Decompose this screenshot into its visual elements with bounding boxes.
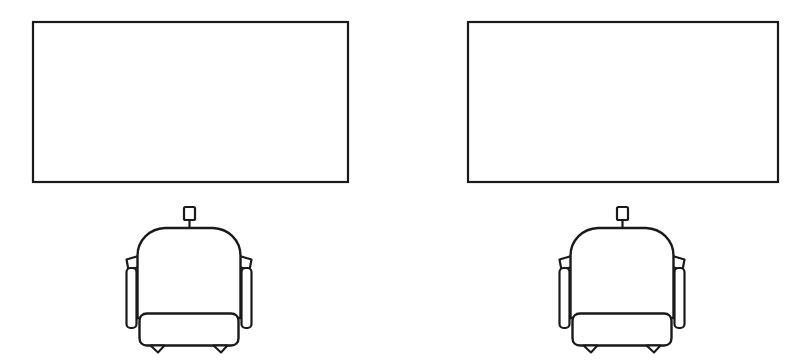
left-armchair-headrest-tab-icon: [184, 207, 195, 220]
left-display-panel-outline: [33, 22, 348, 182]
right-armchair-left-leg: [584, 346, 598, 353]
left-armchair-left-armrest-bar: [127, 268, 137, 328]
right-armchair-seat-cushion: [573, 314, 672, 346]
right-armchair-right-armrest-bar: [675, 268, 685, 328]
right-armchair-backrest: [571, 228, 674, 318]
left-armchair-right-armrest-bar: [242, 268, 252, 328]
left-display-panel: [33, 22, 348, 182]
right-display-panel-outline: [468, 22, 778, 182]
left-armchair-right-leg: [214, 346, 228, 353]
line-drawing-scene: [0, 0, 803, 364]
right-armchair-left-armrest-bar: [560, 268, 570, 328]
left-armchair-left-leg: [151, 346, 165, 353]
right-armchair-right-leg: [647, 346, 661, 353]
drawing-canvas: [0, 0, 803, 364]
left-armchair-seat-cushion: [140, 314, 239, 346]
right-display-panel: [468, 22, 778, 182]
left-armchair-backrest: [138, 228, 241, 318]
right-armchair-headrest-tab-icon: [617, 207, 628, 220]
left-armchair: [127, 207, 252, 353]
right-armchair: [560, 207, 685, 353]
